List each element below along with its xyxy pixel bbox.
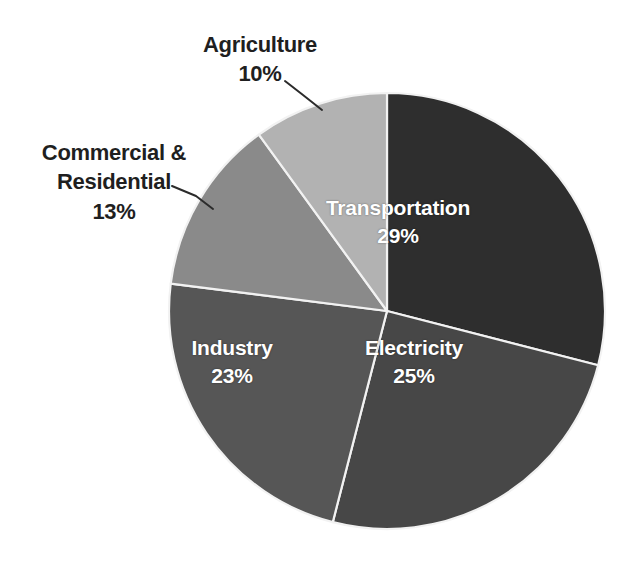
slice-label-agriculture-name: Agriculture bbox=[196, 30, 324, 59]
slice-label-agriculture-value: 10% bbox=[196, 59, 324, 88]
slice-label-agriculture: Agriculture 10% bbox=[196, 30, 324, 89]
pie-slices-group bbox=[169, 93, 605, 529]
slice-label-commercial-residential-name-line1: Commercial & bbox=[26, 138, 202, 167]
pie-chart-figure: Transportation 29% Electricity 25% Indus… bbox=[0, 0, 643, 572]
slice-label-commercial-residential: Commercial & Residential 13% bbox=[26, 138, 202, 226]
slice-label-commercial-residential-value: 13% bbox=[26, 197, 202, 226]
slice-label-commercial-residential-name-line2: Residential bbox=[26, 167, 202, 196]
